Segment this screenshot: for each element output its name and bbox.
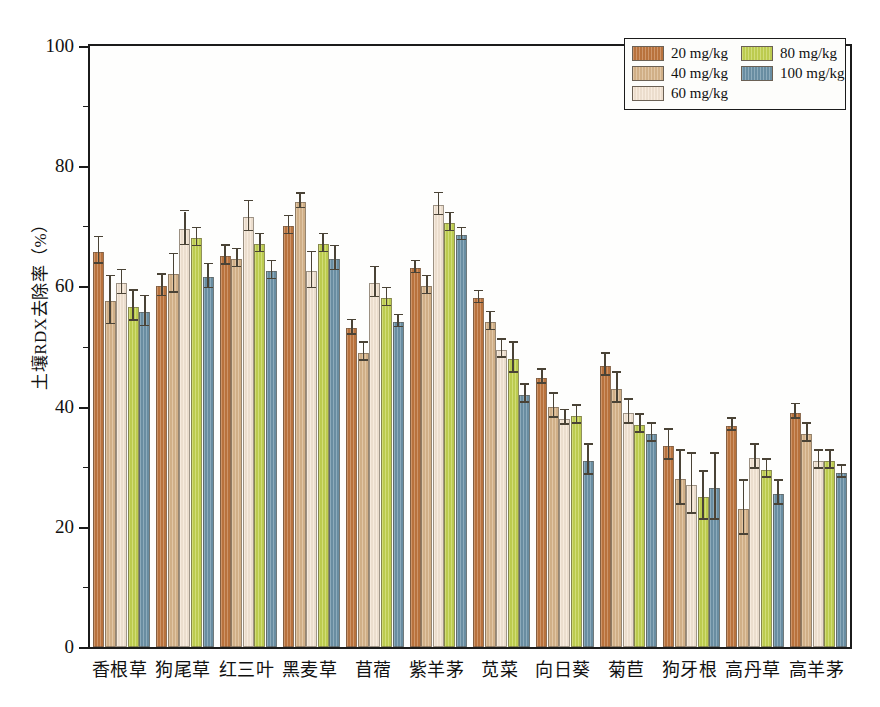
bar	[231, 259, 242, 647]
error-cap-bottom	[106, 323, 115, 325]
y-tick-label: 20	[55, 516, 74, 538]
bar	[381, 298, 392, 647]
error-cap-bottom	[157, 295, 166, 297]
error-cap-top	[94, 236, 103, 238]
error-cap-bottom	[635, 431, 644, 433]
bar	[410, 268, 421, 647]
x-tick-label: 狗尾草	[155, 655, 211, 681]
x-tick-label: 高羊茅	[789, 655, 845, 681]
bar	[128, 307, 139, 647]
legend-item: 80 mg/kg	[741, 44, 845, 63]
error-cap-top	[687, 452, 696, 454]
error-cap-bottom	[232, 266, 241, 268]
error-bar	[628, 400, 630, 424]
bar	[611, 389, 622, 647]
bar	[329, 259, 340, 647]
error-bar	[121, 270, 123, 294]
error-cap-top	[284, 215, 293, 217]
error-cap-top	[509, 341, 518, 343]
legend-item: 40 mg/kg	[632, 64, 728, 83]
error-cap-top	[106, 275, 115, 277]
error-bar	[553, 394, 555, 418]
error-cap-top	[664, 428, 673, 430]
error-cap-bottom	[612, 401, 621, 403]
bar-group	[790, 46, 847, 647]
error-cap-top	[584, 443, 593, 445]
error-cap-bottom	[370, 296, 379, 298]
bar	[421, 286, 432, 647]
error-cap-top	[837, 464, 846, 466]
bar	[156, 286, 167, 647]
error-cap-bottom	[422, 293, 431, 295]
error-cap-bottom	[330, 269, 339, 271]
error-cap-bottom	[584, 473, 593, 475]
error-cap-top	[232, 248, 241, 250]
error-bar	[668, 430, 670, 460]
error-cap-bottom	[710, 518, 719, 520]
error-cap-bottom	[180, 244, 189, 246]
bar	[646, 434, 657, 647]
bar	[548, 407, 559, 647]
x-tick-label: 向日葵	[535, 655, 591, 681]
bar	[444, 223, 455, 647]
error-bar	[501, 340, 503, 358]
tick-mark	[79, 46, 90, 48]
error-bar	[818, 451, 820, 469]
error-bar	[714, 454, 716, 520]
error-cap-bottom	[537, 382, 546, 384]
error-cap-bottom	[411, 272, 420, 274]
bar-group	[663, 46, 720, 647]
error-cap-top	[497, 338, 506, 340]
error-cap-top	[647, 422, 656, 424]
error-cap-bottom	[664, 458, 673, 460]
error-cap-top	[750, 443, 759, 445]
error-cap-bottom	[347, 333, 356, 335]
error-cap-bottom	[762, 476, 771, 478]
error-cap-bottom	[221, 263, 230, 265]
error-cap-top	[411, 260, 420, 262]
error-cap-bottom	[520, 401, 529, 403]
error-cap-top	[457, 227, 466, 229]
error-bar	[132, 291, 134, 321]
error-bar	[766, 460, 768, 478]
bar	[824, 461, 835, 647]
error-cap-top	[255, 233, 264, 235]
error-cap-bottom	[255, 251, 264, 253]
error-cap-top	[825, 449, 834, 451]
error-bar	[651, 424, 653, 442]
error-cap-bottom	[497, 356, 506, 358]
error-cap-bottom	[319, 251, 328, 253]
error-cap-top	[330, 245, 339, 247]
x-tick-label: 狗牙根	[662, 655, 718, 681]
bar-group	[726, 46, 783, 647]
error-bar	[604, 354, 606, 376]
bar	[254, 244, 265, 647]
bar	[600, 366, 611, 647]
error-cap-top	[612, 371, 621, 373]
error-bar	[691, 454, 693, 514]
error-bar	[271, 261, 273, 279]
bar-group	[156, 46, 213, 647]
error-bar	[288, 216, 290, 234]
error-cap-top	[169, 253, 178, 255]
y-tick-label: 100	[46, 35, 75, 57]
error-cap-bottom	[802, 440, 811, 442]
tick-mark	[83, 587, 90, 588]
error-cap-top	[117, 269, 126, 271]
legend-label: 80 mg/kg	[780, 45, 837, 62]
bar	[243, 217, 254, 647]
bar	[283, 226, 294, 647]
error-bar	[679, 451, 681, 505]
error-cap-bottom	[394, 326, 403, 328]
error-bar	[334, 246, 336, 270]
error-cap-top	[221, 244, 230, 246]
bar	[358, 353, 369, 647]
bar	[536, 378, 547, 647]
error-bar	[322, 234, 324, 252]
tick-mark	[79, 286, 90, 288]
error-bar	[512, 343, 514, 373]
error-bar	[224, 246, 226, 265]
error-cap-top	[560, 409, 569, 411]
error-bar	[184, 212, 186, 246]
error-bar	[576, 406, 578, 424]
